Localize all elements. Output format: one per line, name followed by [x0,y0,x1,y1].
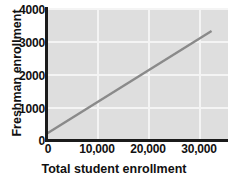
trend-line [47,31,212,133]
data-series-line [47,8,228,140]
x-tick-label: 30,000 [181,143,217,155]
x-tick-label: 20,000 [130,143,166,155]
chart-figure: 4000 3000 2000 1000 0 0 10,000 20,000 30… [0,0,228,180]
x-axis-title: Total student enrollment [0,162,228,176]
y-axis-title: Freshman enrollment [10,8,24,138]
y-axis-line [45,7,48,142]
x-tick-label: 0 [45,143,51,155]
x-tick-label: 10,000 [79,143,115,155]
